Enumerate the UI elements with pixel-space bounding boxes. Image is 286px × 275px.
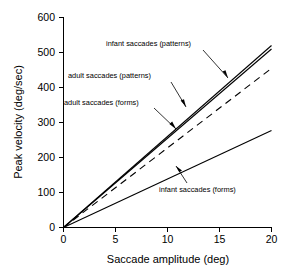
annotation-label-infant-saccades-forms: infant saccades (forms)	[159, 185, 236, 194]
y-tick-label-500: 500	[37, 46, 55, 58]
peak-velocity-vs-saccade-amplitude-chart: 600 500 400 300 200 100 0 0 5 10 15 20 S…	[0, 0, 286, 275]
y-tick-label-200: 200	[37, 151, 55, 163]
y-tick-label-100: 100	[37, 186, 55, 198]
x-tick-label-20: 20	[266, 233, 278, 245]
y-tick-label-0: 0	[49, 221, 55, 233]
annotation-label-infant-saccades-patterns: infant saccades (patterns)	[106, 39, 191, 48]
chart-figure: 600 500 400 300 200 100 0 0 5 10 15 20 S…	[0, 0, 286, 275]
y-axis-title: Peak velocity (deg/sec)	[12, 65, 24, 179]
y-tick-label-300: 300	[37, 116, 55, 128]
annotation-label-adult-saccades-patterns: adult saccades (patterns)	[68, 71, 151, 80]
y-tick-label-400: 400	[37, 81, 55, 93]
annotation-label-adult-saccades-forms: adult saccades (forms)	[64, 98, 139, 107]
x-tick-label-15: 15	[214, 233, 226, 245]
x-axis-title: Saccade amplitude (deg)	[107, 253, 229, 265]
x-tick-label-10: 10	[162, 233, 174, 245]
x-tick-label-0: 0	[61, 233, 67, 245]
y-tick-label-600: 600	[37, 11, 55, 23]
x-tick-label-5: 5	[113, 233, 119, 245]
